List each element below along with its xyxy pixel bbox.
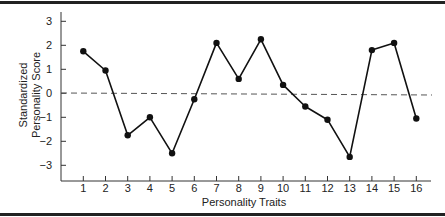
- data-point: [413, 115, 419, 121]
- bottom-frame-rule: [0, 213, 445, 216]
- data-point: [213, 40, 219, 46]
- line-chart: 3210−1−2−3 12345678910111213141516 Perso…: [0, 0, 445, 217]
- x-tick-label: 11: [300, 182, 311, 194]
- x-tick-label: 4: [147, 182, 153, 194]
- x-tick-label: 12: [321, 182, 333, 194]
- y-tick-label: 1: [46, 63, 52, 75]
- data-point: [169, 150, 175, 156]
- x-tick-label: 5: [169, 182, 175, 194]
- y-tick-label: 3: [46, 15, 52, 27]
- x-tick-label: 16: [410, 182, 422, 194]
- data-point: [147, 114, 153, 120]
- x-tick-label: 13: [344, 182, 356, 194]
- data-point: [391, 40, 397, 46]
- x-tick-label: 3: [125, 182, 131, 194]
- data-point: [347, 154, 353, 160]
- data-point: [369, 47, 375, 53]
- x-tick-label: 14: [366, 182, 378, 194]
- x-tick-label: 9: [258, 182, 264, 194]
- data-point: [302, 103, 308, 109]
- series-line: [83, 39, 416, 157]
- y-tick-label: 0: [46, 87, 52, 99]
- data-point: [191, 96, 197, 102]
- y-tick-label: 2: [46, 39, 52, 51]
- y-axis-title-line-1: Standardized: [17, 63, 29, 128]
- data-point: [324, 117, 330, 123]
- data-point: [102, 67, 108, 73]
- series-markers: [80, 36, 419, 160]
- data-point: [125, 132, 131, 138]
- x-tick-label: 15: [388, 182, 400, 194]
- zero-reference-line: [61, 93, 432, 95]
- y-axis-title-line-2: Personality Score: [30, 52, 42, 138]
- data-point: [280, 82, 286, 88]
- x-tick-label: 7: [213, 182, 219, 194]
- data-point: [258, 36, 264, 42]
- x-tick-label: 2: [102, 182, 108, 194]
- data-point: [236, 76, 242, 82]
- x-tick-label: 1: [80, 182, 86, 194]
- top-frame-rule: [0, 1, 445, 4]
- x-tick-label: 6: [191, 182, 197, 194]
- x-tick-label: 10: [277, 182, 289, 194]
- x-axis-title: Personality Traits: [202, 196, 287, 208]
- x-ticks: 12345678910111213141516: [80, 176, 422, 194]
- x-tick-label: 8: [236, 182, 242, 194]
- y-axis-title: Standardized Personality Score: [17, 52, 42, 138]
- data-point: [80, 48, 86, 54]
- y-tick-label: −3: [39, 159, 52, 171]
